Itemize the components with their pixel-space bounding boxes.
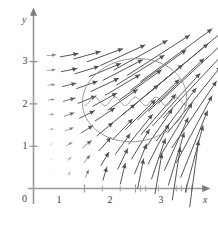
y-tick-label-1: 1 [23, 140, 28, 151]
x-axis-label: x [202, 194, 208, 205]
field-arrow-shaft-7-0 [172, 147, 180, 200]
field-arrow-head-4-2 [126, 134, 131, 139]
field-arrow-head-7-8 [207, 29, 212, 34]
field-arrow-head-0-3 [51, 128, 54, 130]
x-tick-label-3: 3 [159, 194, 164, 205]
field-arrow-head-4-0 [122, 163, 127, 168]
field-arrow-head-0-8 [52, 53, 56, 57]
y-axis-label: y [21, 14, 27, 25]
field-arrow-head-5-0 [140, 159, 145, 164]
field-arrow-head-2-8 [95, 50, 100, 55]
field-arrow-shaft-5-4 [126, 100, 156, 130]
field-arrow-head-0-7 [52, 68, 56, 72]
field-arrow-head-1-7 [72, 67, 77, 72]
field-arrow-shaft-6-8 [127, 35, 189, 75]
field-arrow-shaft-8-3 [176, 96, 212, 162]
x-tick-label-2: 2 [108, 194, 113, 205]
field-arrow-head-1-5 [70, 97, 75, 102]
field-arrow-head-7-4 [191, 88, 196, 93]
origin-label: 0 [22, 193, 27, 204]
field-arrow-head-1-8 [73, 52, 78, 57]
field-arrow-shaft-8-6 [163, 52, 218, 118]
field-arrow-shaft-8-0 [190, 140, 199, 206]
field-arrow-shaft-3-8 [87, 49, 123, 62]
field-arrow-shaft-5-6 [120, 70, 162, 100]
x-tick-label-1: 1 [57, 194, 62, 205]
y-tick-label-3: 3 [23, 55, 28, 66]
field-arrow-shaft-0-0 [51, 173, 52, 174]
field-arrow-shaft-3-7 [89, 63, 121, 76]
field-arrow-head-8-4 [212, 81, 217, 86]
field-arrow-head-1-6 [71, 82, 76, 87]
field-arrow-shaft-0-1 [50, 158, 52, 159]
field-arrow-shaft-0-2 [50, 144, 53, 145]
vector-field-figure: y x 0 1 2 3 1 2 3 [0, 0, 218, 228]
plot-canvas: y x 0 1 2 3 1 2 3 [0, 0, 218, 228]
y-tick-label-2: 2 [23, 98, 28, 109]
vector-field-arrows [47, 22, 218, 207]
